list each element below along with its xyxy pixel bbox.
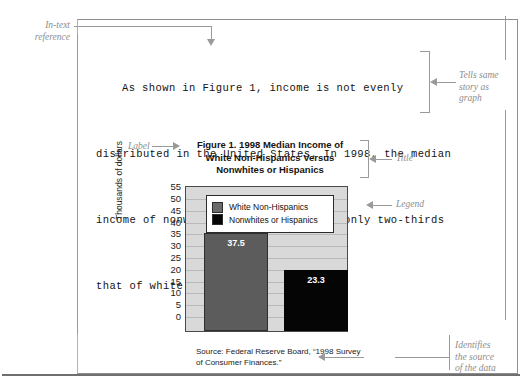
yaxis-title: Thousands of dollars [114,100,124,220]
annotation-identifies-source: Identifies the source of the data [455,340,517,375]
legend-swatch-gray-icon [212,202,223,213]
arrow-left-icon-source [318,353,325,361]
ytick-30: 30 [155,240,181,251]
ytick-15: 15 [155,276,181,287]
annotation-title: Title [396,153,413,165]
leader-identifies-source-left [324,357,364,358]
document-left-edge-rule [77,34,78,334]
ytick-5: 5 [155,299,181,310]
right-margin-rule-top [505,16,506,60]
legend-label-1: White Non-Hispanics [229,202,308,212]
arrow-left-icon-title [369,155,376,163]
bar-nonwhites-or-hispanics: 23.3 [284,270,348,331]
arrow-right-icon [173,142,180,150]
legend-label-2: Nonwhites or Hispanics [229,215,318,225]
leader-tells-same-story [434,82,456,83]
annotation-legend: Legend [396,199,424,211]
figure-title-line-1: Figure 1. 1998 Median Income of [182,139,358,152]
leader-label [152,146,174,147]
ytick-25: 25 [155,252,181,263]
document-frame-bottom-rule [2,374,520,376]
body-line-1: As shown in Figure 1, income is not even… [96,77,426,99]
ytick-45: 45 [155,205,181,216]
bar-chart: 37.5 23.3 White Non-Hispanics Nonwhites … [185,186,348,332]
ytick-50: 50 [155,193,181,204]
bar-white-non-hispanics: 37.5 [204,233,268,331]
ytick-55: 55 [155,181,181,192]
bar-value-label-2: 23.3 [285,275,347,285]
bracket-body-text [420,51,430,113]
figure-title-line-2: White Non-Hispanics Versus [182,152,358,165]
figure-annotated-page: In-text reference As shown in Figure 1, … [0,0,522,384]
arrow-left-icon [430,78,437,86]
chart-legend: White Non-Hispanics Nonwhites or Hispani… [206,195,334,233]
bar-value-label-1: 37.5 [205,238,267,248]
leader-in-text-reference-horizontal [74,26,212,27]
ytick-10: 10 [155,287,181,298]
ytick-35: 35 [155,228,181,239]
legend-swatch-black-icon [212,214,223,225]
right-margin-rule-bottom [505,110,506,320]
leader-identifies-source-vertical [449,335,450,370]
figure-title-line-3: Nonwhites or Hispanics [182,164,358,177]
legend-item-white-non-hispanics: White Non-Hispanics [212,202,328,213]
bracket-figure-title [360,140,369,178]
legend-item-nonwhites-or-hispanics: Nonwhites or Hispanics [212,214,328,225]
leader-identifies-source [395,357,450,358]
leader-legend [372,205,392,206]
ytick-40: 40 [155,217,181,228]
leader-title [374,159,392,160]
annotation-tells-same-story: Tells same story as graph [459,70,519,105]
yaxis-title-anchor: Thousands of dollars [152,186,153,187]
figure-title: Figure 1. 1998 Median Income of White No… [182,139,358,177]
ytick-0: 0 [155,311,181,322]
annotation-label: Label [128,141,150,153]
ytick-20: 20 [155,264,181,275]
arrow-left-icon-legend [366,201,373,209]
annotation-in-text-reference: In-text reference [14,20,70,43]
